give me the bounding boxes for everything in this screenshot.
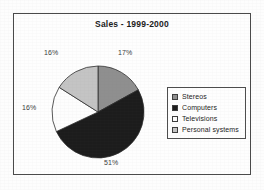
legend-swatch-icon-computers	[172, 105, 178, 111]
legend-label-personal-systems: Personal systems	[182, 126, 239, 133]
legend-item-televisions: Televisions	[171, 113, 242, 124]
pie-label-computers: 51%	[104, 159, 118, 166]
chart-legend: Stereos Computers Televisions Personal s…	[167, 87, 246, 139]
chart-screenshot: Sales - 1999-2000 17% 51% 16% 16% Stereo…	[0, 0, 264, 190]
legend-swatch-icon-televisions	[172, 116, 178, 122]
pie-label-stereos: 17%	[118, 49, 132, 56]
legend-label-televisions: Televisions	[182, 115, 217, 122]
legend-item-stereos: Stereos	[171, 91, 242, 102]
legend-swatch-icon-personal-systems	[172, 127, 178, 133]
legend-swatch-icon-stereos	[172, 94, 178, 100]
pie-chart	[51, 65, 145, 159]
pie-label-televisions: 16%	[22, 104, 36, 111]
legend-label-computers: Computers	[182, 104, 217, 111]
pie-slice-group	[52, 66, 144, 158]
legend-label-stereos: Stereos	[182, 93, 207, 100]
pie-label-personal-systems: 16%	[44, 49, 58, 56]
pie-svg	[51, 65, 145, 159]
legend-item-personal-systems: Personal systems	[171, 124, 242, 135]
chart-title: Sales - 1999-2000	[0, 19, 264, 29]
legend-item-computers: Computers	[171, 102, 242, 113]
